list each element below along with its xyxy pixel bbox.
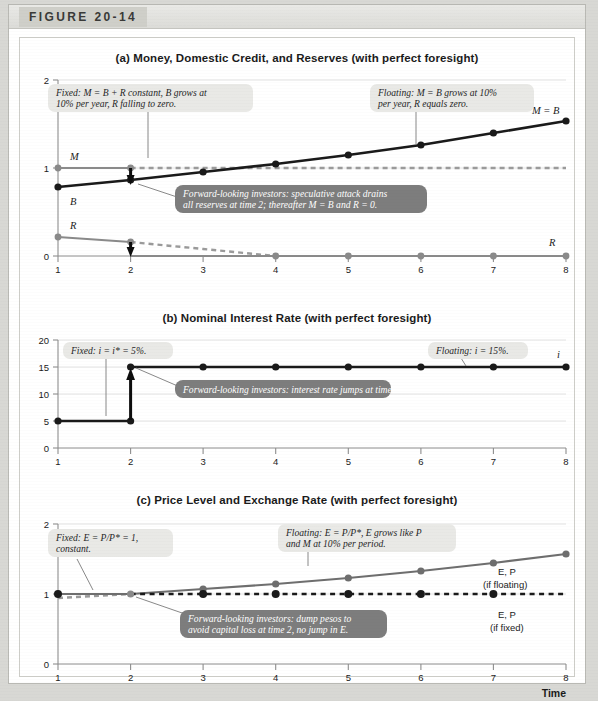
label-a-r-right: R	[548, 237, 556, 248]
callout-c-dump-line2: avoid capital loss at time 2, no jump in…	[188, 624, 348, 635]
ylabel-b-0: 0	[44, 443, 49, 454]
figure-container: FIGURE 20-14 (a) Money, Domestic Credit,…	[8, 4, 586, 684]
label-c-fixed-2: (if fixed)	[490, 622, 524, 633]
xlabel-b-4: 4	[273, 456, 278, 467]
leader-c-fixed	[77, 559, 93, 590]
xlabel-a-6: 6	[418, 264, 423, 275]
ylabel-a-1: 1	[44, 163, 49, 174]
callout-c-fixed-line2: constant.	[56, 543, 91, 554]
xlabel-c-6: 6	[418, 672, 423, 683]
figure-number-label: FIGURE 20-14	[19, 7, 147, 27]
callout-b-floating: Floating: i = 15%.	[428, 342, 528, 359]
callout-c-fixed-line1: Fixed: E = P/P* = 1,	[55, 532, 138, 543]
xlabel-c-4: 4	[273, 672, 278, 683]
series-a-r-solid	[58, 237, 131, 242]
leader-c-dump	[136, 597, 185, 614]
xlabel-a-5: 5	[346, 264, 351, 275]
callout-a-fixed-line1: Fixed: M = B + R constant, B grows at	[55, 87, 207, 98]
ylabel-b-5: 5	[44, 416, 49, 427]
ylabel-b-10: 10	[38, 389, 49, 400]
label-a-mb: M = B	[531, 105, 560, 116]
callout-c-floating-line2: and M at 10% per period.	[286, 538, 386, 549]
leader-a-attack	[138, 184, 180, 198]
label-c-fixed-1: E, P	[498, 609, 516, 620]
xlabel-c-3: 3	[200, 672, 205, 683]
ylabel-c-2: 2	[44, 519, 49, 530]
callout-a-fixed-line2: 10% per year, R falling to zero.	[56, 98, 176, 109]
xlabel-a-1: 1	[55, 264, 60, 275]
xlabel-b-5: 5	[346, 456, 351, 467]
figure-header-bar: FIGURE 20-14	[9, 5, 585, 29]
panel-c-chart: 2 1 0 1 2 3 4 5 6 7 8 Time	[20, 514, 576, 701]
xlabel-a-3: 3	[200, 264, 205, 275]
label-c-floating-1: E, P	[498, 566, 516, 577]
callout-c-floating: Floating: E = P/P*, E grows like P and M…	[278, 524, 456, 552]
panel-c-title: (c) Price Level and Exchange Rate (with …	[20, 494, 574, 506]
callout-b-jump-line1: Forward-looking investors: interest rate…	[182, 384, 401, 395]
xaxis-b-ticks	[58, 448, 566, 454]
callout-c-dump: Forward-looking investors: dump pesos to…	[180, 610, 387, 638]
callout-a-fixed: Fixed: M = B + R constant, B grows at 10…	[48, 84, 253, 112]
callout-b-fixed-line1: Fixed: i = i* = 5%.	[70, 345, 146, 356]
callout-a-floating: Floating: M = B grows at 10% per year, R…	[370, 84, 534, 112]
xlabel-c-1: 1	[55, 672, 60, 683]
xlabel-a-4: 4	[273, 264, 278, 275]
arrow-a-r-to-zero	[127, 242, 135, 257]
series-a-r-dashed	[131, 242, 276, 256]
xlabel-c-5: 5	[346, 672, 351, 683]
xlabel-b-6: 6	[418, 456, 423, 467]
callout-b-fixed: Fixed: i = i* = 5%.	[63, 342, 173, 359]
ylabel-c-0: 0	[44, 659, 49, 670]
leader-b-jump	[136, 368, 180, 387]
callout-c-fixed: Fixed: E = P/P* = 1, constant.	[48, 529, 173, 557]
ylabel-b-15: 15	[38, 362, 49, 373]
label-a-b: B	[70, 196, 77, 207]
panel-a-chart: 2 1 0 1 2 3 4 5 6 7 8	[20, 72, 576, 302]
series-a-mb	[58, 121, 566, 187]
xlabel-a-7: 7	[491, 264, 496, 275]
callout-c-dump-line1: Forward-looking investors: dump pesos to	[187, 613, 351, 624]
xlabel-a-8: 8	[563, 264, 568, 275]
xlabel-c-7: 7	[491, 672, 496, 683]
callout-b-jump: Forward-looking investors: interest rate…	[175, 380, 401, 398]
ylabel-c-1: 1	[44, 589, 49, 600]
xlabel-b-8: 8	[563, 456, 568, 467]
panel-b-title: (b) Nominal Interest Rate (with perfect …	[20, 312, 574, 324]
callout-a-attack-line1: Forward-looking investors: speculative a…	[182, 188, 388, 199]
xlabel-c-8: 8	[563, 672, 568, 683]
callout-a-floating-line2: per year, R equals zero.	[377, 98, 468, 109]
xlabel-b-7: 7	[491, 456, 496, 467]
figure-body: (a) Money, Domestic Credit, and Reserves…	[19, 37, 575, 677]
panel-b-chart: 20 15 10 5 0 1 2 3 4 5 6 7 8	[20, 332, 576, 502]
panel-a-title: (a) Money, Domestic Credit, and Reserves…	[20, 52, 574, 64]
xaxis-c-title: Time	[542, 687, 566, 699]
callout-a-floating-line1: Floating: M = B grows at 10%	[377, 87, 497, 98]
callout-c-floating-line1: Floating: E = P/P*, E grows like P	[285, 527, 422, 538]
ylabel-a-2: 2	[44, 75, 49, 86]
callout-b-floating-line1: Floating: i = 15%.	[435, 345, 509, 356]
arrow-a-m-to-b	[127, 168, 135, 185]
xlabel-a-2: 2	[128, 264, 133, 275]
xlabel-c-2: 2	[128, 672, 133, 683]
label-a-m: M	[69, 151, 80, 162]
callout-a-attack: Forward-looking investors: speculative a…	[175, 185, 427, 213]
xlabel-b-2: 2	[128, 456, 133, 467]
series-c-markers	[54, 550, 570, 598]
label-a-r: R	[69, 220, 77, 231]
label-b-i: i	[557, 349, 560, 360]
xaxis-c-ticks	[58, 664, 566, 670]
ylabel-a-0: 0	[44, 251, 49, 262]
ylabel-b-20: 20	[38, 335, 49, 346]
label-c-floating-2: (if floating)	[483, 579, 527, 590]
xlabel-b-1: 1	[55, 456, 60, 467]
xlabel-b-3: 3	[200, 456, 205, 467]
callout-a-attack-line2: all reserves at time 2; thereafter M = B…	[183, 199, 377, 210]
leader-b-floating	[461, 358, 466, 366]
